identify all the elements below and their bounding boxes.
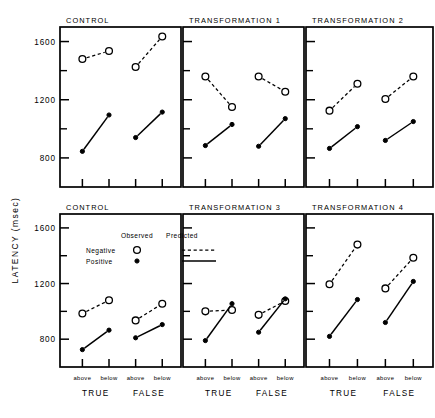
panel-title: CONTROL	[66, 16, 109, 25]
x-sub-label: below	[349, 375, 367, 381]
data-point-negative	[106, 297, 113, 304]
y-tick-label: 1200	[34, 96, 56, 105]
data-point-positive	[355, 297, 359, 301]
data-point-negative	[79, 56, 86, 63]
data-point-negative	[354, 241, 361, 248]
panel-transformation-4-1: TRANSFORMATION 4	[306, 203, 433, 368]
panel-title: TRANSFORMATION 3	[189, 203, 281, 212]
series-segment-negative	[332, 248, 355, 280]
data-point-positive	[327, 146, 331, 150]
series-segment-negative	[388, 261, 410, 285]
data-point-positive	[160, 322, 164, 326]
series-segment-positive	[331, 302, 356, 335]
data-point-negative	[282, 88, 289, 95]
data-point-positive	[411, 119, 415, 123]
x-axis-labels: abovebelowabovebelowTRUEFALSEabovebelowa…	[73, 375, 422, 398]
y-axis-labels-row-0: 80012001600	[34, 38, 56, 163]
data-point-positive	[355, 125, 359, 129]
data-point-negative	[410, 73, 417, 80]
data-point-positive	[327, 334, 331, 338]
y-tick-label: 1600	[34, 224, 56, 233]
data-point-positive	[411, 279, 415, 283]
legend-marker-open-circle-icon	[134, 247, 141, 254]
x-sub-label: below	[154, 375, 172, 381]
panel-title: TRANSFORMATION 1	[189, 16, 281, 25]
y-axis-labels-row-1: 80012001600	[34, 224, 56, 344]
panel-title: TRANSFORMATION 4	[312, 203, 404, 212]
x-sub-label: above	[127, 375, 145, 381]
panel-frame	[183, 214, 304, 367]
panel-control-1: CONTROL	[60, 203, 181, 368]
x-group-label: FALSE	[383, 389, 415, 398]
data-point-positive	[134, 336, 138, 340]
x-sub-label: below	[100, 375, 118, 381]
y-tick-label: 1200	[34, 280, 56, 289]
x-sub-label: above	[321, 375, 339, 381]
figure-container: CONTROLTRANSFORMATION 1TRANSFORMATION 2C…	[0, 0, 435, 418]
x-sub-label: below	[277, 375, 295, 381]
data-point-negative	[382, 96, 389, 103]
series-segment-positive	[207, 126, 230, 144]
series-segment-negative	[86, 302, 105, 311]
data-point-positive	[230, 122, 234, 126]
x-group-label: FALSE	[256, 389, 288, 398]
x-sub-label: above	[376, 375, 394, 381]
series-segment-negative	[262, 79, 281, 90]
data-point-negative	[106, 48, 113, 55]
legend-label-positive: Positive	[86, 258, 113, 265]
data-point-negative	[202, 73, 209, 80]
data-point-negative	[132, 64, 139, 71]
data-point-positive	[107, 328, 111, 332]
data-point-positive	[383, 138, 387, 142]
legend-marker-filled-circle-icon	[135, 259, 139, 263]
panel-transformation-1-0: TRANSFORMATION 1	[183, 16, 304, 188]
legend-header-observed: Observed	[121, 232, 153, 239]
data-point-negative	[79, 310, 86, 317]
data-point-positive	[283, 297, 287, 301]
series-segment-positive	[260, 121, 283, 145]
panel-frame	[306, 27, 433, 187]
data-point-negative	[354, 80, 361, 87]
x-sub-label: below	[223, 375, 241, 381]
x-group-label: TRUE	[82, 389, 110, 398]
data-point-positive	[203, 143, 207, 147]
series-segment-positive	[388, 123, 412, 139]
legend-label-negative: Negative	[86, 247, 116, 255]
panel-frame	[183, 27, 304, 187]
y-axis-title-group: LATENCY (msec)	[10, 197, 20, 284]
series-segment-negative	[139, 306, 158, 318]
data-point-positive	[107, 113, 111, 117]
panel-frame	[60, 27, 181, 187]
series-segment-negative	[87, 52, 105, 57]
series-segment-positive	[387, 284, 412, 321]
multi-panel-line-chart: CONTROLTRANSFORMATION 1TRANSFORMATION 2C…	[0, 0, 435, 418]
data-point-negative	[255, 73, 262, 80]
data-point-negative	[410, 254, 417, 261]
x-group-label: FALSE	[133, 389, 165, 398]
data-point-positive	[134, 135, 138, 139]
data-point-negative	[326, 281, 333, 288]
series-segment-negative	[333, 87, 355, 108]
data-point-positive	[160, 110, 164, 114]
data-point-negative	[202, 308, 209, 315]
data-point-positive	[80, 348, 84, 352]
data-point-positive	[257, 144, 261, 148]
x-sub-label: above	[196, 375, 214, 381]
panel-control-0: CONTROL	[60, 16, 181, 188]
x-group-label: TRUE	[205, 389, 233, 398]
panel-transformation-3-1: TRANSFORMATION 3	[183, 203, 304, 368]
data-point-negative	[159, 300, 166, 307]
panel-transformation-2-0: TRANSFORMATION 2	[306, 16, 433, 188]
series-segment-positive	[84, 332, 106, 348]
data-point-positive	[230, 302, 234, 306]
data-point-positive	[283, 117, 287, 121]
panel-title: TRANSFORMATION 2	[312, 16, 404, 25]
series-segment-negative	[389, 79, 410, 96]
data-point-positive	[383, 320, 387, 324]
y-tick-label: 800	[40, 335, 56, 344]
x-sub-label: above	[250, 375, 268, 381]
series-segment-positive	[138, 114, 161, 136]
data-point-negative	[132, 317, 139, 324]
series-segment-positive	[332, 128, 356, 147]
series-segment-positive	[84, 117, 108, 149]
